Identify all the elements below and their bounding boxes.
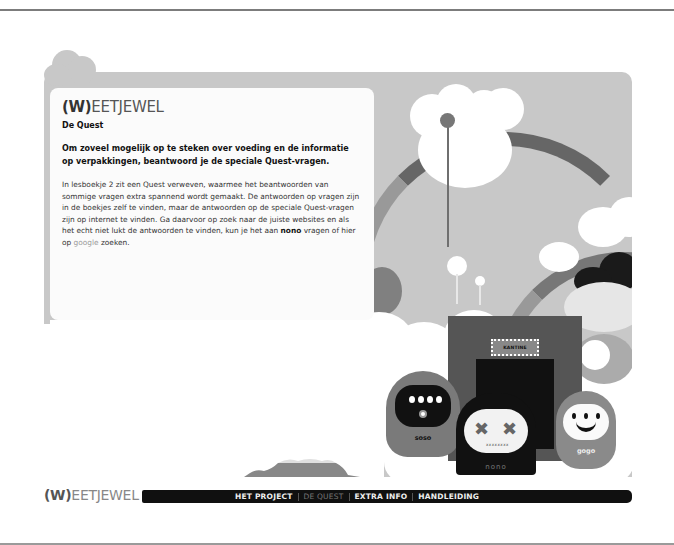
soso-label: soso [386,434,460,442]
nono-eye-x-icon: ✖ [474,420,489,438]
white-cloud [580,340,610,370]
main-nav: HET PROJECT DE QUEST EXTRA INFO HANDLEID… [142,490,632,503]
footer-logo-rest: EETJEWEL [71,487,138,503]
top-divider [0,9,674,11]
balloon [440,113,455,128]
footer-logo-prefix: (W) [44,487,71,503]
footer-logo[interactable]: (W)EETJEWEL [44,487,139,503]
lollipop-stick [479,285,481,305]
body-paragraph: In lesboekje 2 zit een Quest verweven, w… [62,179,362,248]
gogo-face [563,404,609,440]
lead-paragraph: Om zoveel mogelijk op te steken over voe… [62,142,362,168]
logo[interactable]: (W)EETJEWEL [62,98,362,116]
white-cloud [539,242,579,272]
balloon-string [447,127,449,247]
character-gogo[interactable]: gogo [556,391,616,469]
soso-eyes [409,396,442,403]
cloud-bump [68,56,96,84]
kantine-sign: KANTINE [491,339,539,356]
kantine-sign-text: KANTINE [503,345,527,350]
gogo-eye [596,413,600,419]
logo-prefix: (W) [62,98,91,116]
hill-decoration [244,455,360,477]
gogo-eye [584,413,588,419]
logo-rest: EETJEWEL [91,98,163,116]
nav-extra-info[interactable]: EXTRA INFO [350,492,413,501]
gogo-label: gogo [556,447,616,455]
cloud-bump [44,64,70,86]
nono-mouth: xxxxxxxx [486,442,509,447]
page-frame: (W)EETJEWEL De Quest Om zoveel mogelijk … [0,0,674,545]
gogo-eye [572,413,576,419]
nono-eye-x-icon: ✖ [502,420,517,438]
white-cloud [418,112,512,188]
google-link[interactable]: google [74,238,99,247]
nono-emphasis: nono [281,226,302,235]
lower-white-area [44,320,384,477]
gogo-mouth [576,422,596,432]
body-text-3: zoeken. [99,238,130,247]
soso-mouth [419,410,427,418]
footer: (W)EETJEWEL HET PROJECT DE QUEST EXTRA I… [44,487,632,507]
nono-face: ✖ ✖ xxxxxxxx [464,409,528,453]
lollipop-stick [456,274,458,304]
lollipop-big [447,256,467,276]
page-subtitle: De Quest [62,121,362,130]
nav-het-project[interactable]: HET PROJECT [230,492,298,501]
soso-face [395,385,451,427]
character-soso[interactable]: soso [386,371,460,457]
nav-handleiding[interactable]: HANDLEIDING [413,492,484,501]
nono-label: nono [456,463,536,471]
character-nono[interactable]: ✖ ✖ xxxxxxxx nono [456,393,536,475]
nav-de-quest[interactable]: DE QUEST [299,492,349,501]
content-card: (W)EETJEWEL De Quest Om zoveel mogelijk … [50,88,374,320]
